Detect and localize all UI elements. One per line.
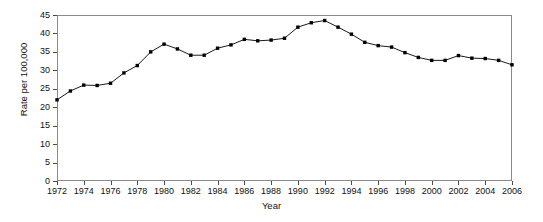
data-point-marker	[430, 59, 433, 62]
data-point-marker	[296, 25, 299, 28]
x-tick-mark	[57, 181, 58, 185]
data-point-marker	[216, 47, 219, 50]
data-point-marker	[497, 59, 500, 62]
y-tick-label: 5	[14, 158, 50, 167]
x-tick-mark	[378, 181, 379, 185]
data-point-marker	[82, 83, 85, 86]
data-point-marker	[243, 38, 246, 41]
y-tick-label: 45	[14, 11, 50, 20]
data-point-marker	[350, 32, 353, 35]
data-point-marker	[256, 39, 259, 42]
data-point-marker	[443, 59, 446, 62]
x-tick-mark	[164, 181, 165, 185]
data-point-marker	[390, 45, 393, 48]
data-point-marker	[470, 56, 473, 59]
data-point-marker	[109, 82, 112, 85]
data-point-marker	[176, 47, 179, 50]
data-point-marker	[363, 41, 366, 44]
data-point-marker	[269, 38, 272, 41]
x-tick-mark	[137, 181, 138, 185]
x-tick-mark	[271, 181, 272, 185]
data-point-marker	[417, 56, 420, 59]
data-point-marker	[403, 51, 406, 54]
x-tick-mark	[84, 181, 85, 185]
data-point-marker	[203, 54, 206, 57]
y-axis-title: Rate per 100,000	[18, 25, 29, 135]
x-tick-mark	[218, 181, 219, 185]
x-tick-mark	[458, 181, 459, 185]
data-point-marker	[95, 84, 98, 87]
x-tick-mark	[325, 181, 326, 185]
data-point-marker	[229, 43, 232, 46]
x-tick-mark	[111, 181, 112, 185]
y-tick-label: 10	[14, 140, 50, 149]
x-tick-mark	[432, 181, 433, 185]
x-tick-mark	[485, 181, 486, 185]
x-tick-label: 2006	[492, 187, 532, 196]
data-point-marker	[283, 37, 286, 40]
data-point-marker	[510, 63, 513, 66]
x-tick-mark	[191, 181, 192, 185]
data-point-marker	[310, 21, 313, 24]
x-tick-mark	[298, 181, 299, 185]
x-tick-mark	[405, 181, 406, 185]
y-tick-label: 0	[14, 177, 50, 186]
data-point-marker	[149, 50, 152, 53]
x-tick-mark	[512, 181, 513, 185]
x-tick-mark	[351, 181, 352, 185]
data-series-layer	[57, 15, 512, 181]
data-point-marker	[189, 54, 192, 57]
x-tick-mark	[244, 181, 245, 185]
data-point-marker	[376, 44, 379, 47]
data-point-marker	[69, 89, 72, 92]
data-point-marker	[484, 57, 487, 60]
data-point-marker	[323, 19, 326, 22]
data-point-marker	[136, 64, 139, 67]
data-point-marker	[162, 42, 165, 45]
line-chart-figure: 051015202530354045 197219741976197819801…	[0, 0, 543, 222]
x-axis-title: Year	[0, 200, 543, 211]
data-point-marker	[336, 25, 339, 28]
data-point-marker	[55, 98, 58, 101]
data-point-marker	[457, 54, 460, 57]
series-markers	[55, 19, 513, 102]
data-point-marker	[122, 71, 125, 74]
